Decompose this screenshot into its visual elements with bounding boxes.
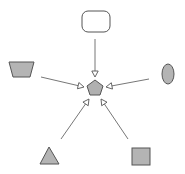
- edge-left-to-center[interactable]: [41, 77, 78, 86]
- arrowhead-bottom-left-icon: [83, 99, 89, 106]
- node-top-rounded-rectangle[interactable]: [82, 11, 110, 32]
- node-right-ellipse[interactable]: [162, 64, 174, 84]
- diagram-canvas: [0, 0, 185, 174]
- nodes-layer: [9, 11, 174, 165]
- edge-bottom-left-to-center[interactable]: [61, 104, 86, 139]
- node-bottom-right-square[interactable]: [132, 148, 150, 165]
- arrowhead-bottom-right-icon: [101, 99, 107, 106]
- node-bottom-left-triangle[interactable]: [40, 147, 59, 164]
- edge-bottom-right-to-center[interactable]: [104, 104, 128, 139]
- arrowhead-right-icon: [106, 83, 112, 89]
- arrowhead-left-icon: [77, 83, 84, 89]
- edge-right-to-center[interactable]: [112, 79, 149, 86]
- node-left-trapezoid[interactable]: [9, 62, 34, 77]
- arrowhead-top-icon: [92, 71, 98, 77]
- node-center-pentagon[interactable]: [87, 80, 103, 95]
